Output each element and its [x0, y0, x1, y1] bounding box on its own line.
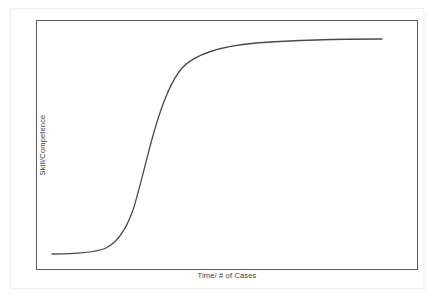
learning-curve-line — [52, 39, 382, 254]
y-axis-label: Skill/Competence — [38, 70, 47, 220]
figure-canvas: Skill/Competence Time/ # of Cases — [0, 0, 434, 297]
x-axis-label: Time/ # of Cases — [36, 271, 418, 280]
learning-curve-plot — [36, 20, 418, 270]
y-axis-label-holder: Skill/Competence — [28, 70, 38, 220]
